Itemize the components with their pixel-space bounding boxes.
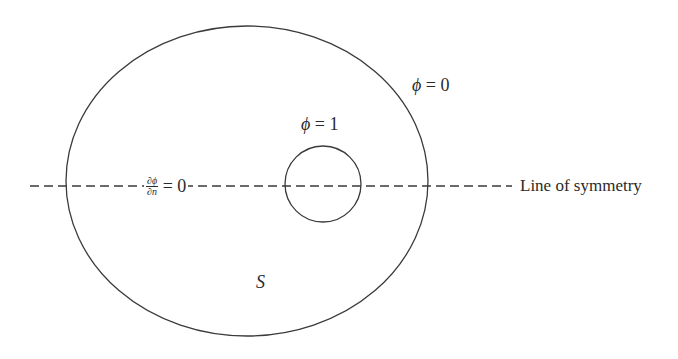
inner-condition-label: ϕ = 1 <box>301 114 338 135</box>
outer-condition-label: ϕ = 0 <box>412 75 449 96</box>
inner-boundary-circle <box>285 146 361 222</box>
region-label: S <box>256 272 265 293</box>
neumann-condition-label: ∂ϕ ∂n = 0 <box>144 175 188 197</box>
symmetry-line-label: Line of symmetry <box>520 176 642 196</box>
normal-derivative-fraction: ∂ϕ ∂n <box>146 176 158 197</box>
outer-boundary-ellipse <box>66 26 428 336</box>
phi-symbol: ϕ <box>412 75 421 95</box>
phi-symbol: ϕ <box>301 114 310 134</box>
